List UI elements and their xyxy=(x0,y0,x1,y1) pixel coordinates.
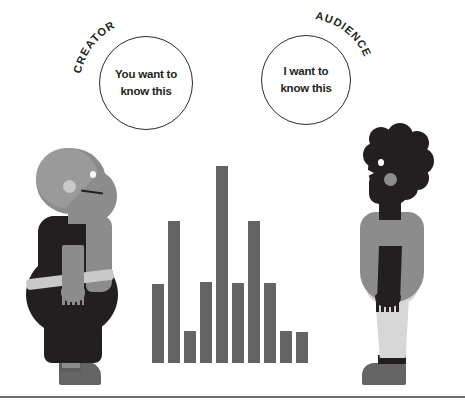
audience-fingers xyxy=(376,302,400,312)
chart-bar xyxy=(280,331,292,363)
chart-bar xyxy=(216,166,228,363)
chart-bar xyxy=(152,284,164,363)
audience-bubble-text: I want to know this xyxy=(274,63,337,96)
chart-bar xyxy=(248,221,260,363)
bar-chart xyxy=(150,160,316,363)
chart-bar xyxy=(184,331,196,363)
chart-bar xyxy=(232,283,244,363)
audience-thought-bubble: I want to know this xyxy=(261,35,351,125)
audience-shoe xyxy=(362,363,406,385)
chart-bar xyxy=(264,283,276,363)
creator-fingers xyxy=(62,296,84,305)
creator-earring xyxy=(63,180,76,193)
creator-eye xyxy=(90,171,96,178)
audience-earring xyxy=(384,173,397,186)
creator-thought-bubble: You want to know this xyxy=(99,36,193,130)
chart-bar xyxy=(168,221,180,363)
audience-eye xyxy=(378,159,384,166)
creator-bubble-text: You want to know this xyxy=(109,66,183,99)
illustration-canvas: You want to know this CREATOR I want to … xyxy=(0,0,465,407)
bottom-divider xyxy=(0,396,465,398)
chart-bar xyxy=(200,282,212,363)
chart-bar xyxy=(296,332,308,363)
